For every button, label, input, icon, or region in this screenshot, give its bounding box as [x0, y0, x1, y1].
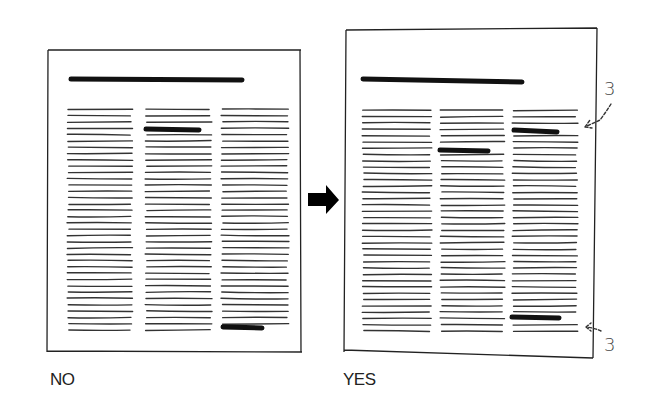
no-text-line	[145, 141, 211, 142]
yes-text-line	[513, 142, 578, 143]
yes-text-line	[363, 236, 430, 237]
yes-text-line	[442, 167, 503, 168]
yes-text-line	[513, 110, 577, 111]
yes-text-line	[441, 217, 502, 218]
no-text-line	[222, 260, 287, 261]
yes-text-line	[364, 173, 432, 174]
no-text-line	[67, 178, 132, 179]
no-text-line	[68, 147, 132, 148]
yes-text-line	[363, 325, 431, 326]
label-no: NO	[50, 370, 75, 390]
no-text-line	[145, 254, 211, 255]
no-text-line	[146, 292, 210, 293]
yes-text-line	[363, 249, 430, 250]
no-text-line	[67, 298, 132, 299]
no-text-line	[223, 191, 286, 192]
yes-text-line	[513, 167, 576, 168]
yes-text-line	[440, 242, 504, 243]
yes-text-line	[440, 129, 503, 130]
yes-text-line	[363, 154, 429, 155]
no-text-line	[222, 254, 288, 255]
no-text-line	[68, 216, 131, 217]
subhead-yes-col3-bottom	[512, 317, 559, 318]
yes-text-line	[441, 262, 505, 263]
headline-yes	[363, 79, 522, 82]
headline-no	[71, 79, 242, 80]
no-text-line	[222, 172, 288, 173]
no-text-line	[68, 260, 132, 261]
no-text-line	[223, 185, 287, 186]
yes-text-line	[363, 268, 429, 269]
yes-text-line	[514, 306, 577, 307]
no-text-line	[222, 292, 288, 293]
right-arrow-icon	[308, 185, 339, 214]
no-text-line	[68, 317, 131, 318]
yes-text-line	[441, 268, 505, 269]
yes-text-line	[513, 154, 575, 155]
no-text-line	[67, 235, 130, 236]
yes-text-line	[442, 224, 505, 225]
no-text-line	[68, 197, 132, 198]
annotation-bottom-3: 3	[604, 334, 615, 355]
no-text-line	[145, 191, 209, 192]
no-text-line	[146, 330, 211, 331]
no-text-line	[145, 305, 211, 306]
page-frame-no	[47, 50, 302, 352]
yes-text-line	[440, 236, 503, 237]
yes-text-line	[440, 318, 504, 319]
subhead-no-col2	[146, 129, 199, 130]
yes-text-line	[441, 154, 504, 155]
no-text-line	[68, 115, 130, 116]
yes-text-line	[362, 204, 429, 205]
no-text-line	[221, 235, 289, 236]
yes-text-line	[512, 287, 575, 288]
yes-text-line	[441, 116, 503, 117]
yes-text-line	[362, 192, 429, 193]
yes-text-line	[513, 186, 575, 187]
no-text-line	[67, 134, 130, 135]
diagram-canvas	[0, 0, 661, 420]
no-text-line	[223, 324, 289, 325]
no-text-line	[68, 160, 133, 161]
yes-text-line	[440, 280, 504, 281]
no-text-line	[147, 311, 212, 312]
annotation-top-3: 3	[604, 78, 615, 99]
yes-text-line	[363, 230, 432, 231]
no-text-line	[68, 141, 133, 142]
label-yes: YES	[343, 370, 376, 390]
yes-text-line	[514, 161, 577, 162]
no-text-line	[223, 223, 288, 224]
subhead-no-col3	[223, 327, 262, 328]
yes-text-line	[514, 267, 577, 268]
annotation-arrow-top	[585, 104, 611, 128]
yes-text-line	[364, 180, 432, 181]
yes-text-line	[441, 141, 505, 142]
yes-text-line	[513, 211, 578, 212]
no-text-line	[67, 248, 132, 249]
yes-text-line	[363, 186, 431, 187]
yes-text-line	[364, 331, 430, 332]
yes-text-line	[441, 186, 504, 187]
no-text-line	[68, 267, 132, 268]
yes-text-line	[441, 180, 505, 181]
no-text-line	[146, 235, 210, 236]
yes-text-line	[513, 299, 576, 300]
no-text-line	[68, 122, 131, 123]
yes-text-line	[442, 192, 504, 193]
no-text-line	[146, 223, 212, 224]
no-text-line	[221, 160, 286, 161]
no-text-line	[221, 298, 288, 299]
no-text-line	[147, 210, 211, 211]
yes-text-line	[514, 243, 577, 244]
subhead-yes-col2	[440, 150, 488, 151]
no-text-line	[67, 279, 132, 280]
subhead-yes-col3	[514, 130, 557, 132]
yes-text-line	[513, 230, 577, 231]
